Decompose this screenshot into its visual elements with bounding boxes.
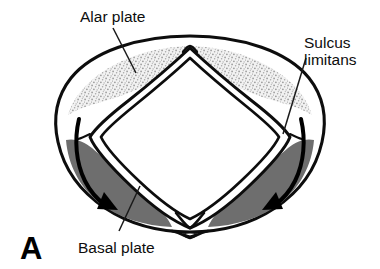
label-sulcus-limitans-line2: limitans (304, 51, 357, 68)
panel-letter: A (20, 231, 42, 266)
neural-tube-diagram: Alar plate Sulcus limitans Basal plate A (0, 0, 380, 269)
label-alar-plate: Alar plate (80, 8, 145, 25)
label-sulcus-limitans-line1: Sulcus (304, 34, 351, 51)
label-basal-plate: Basal plate (78, 239, 155, 256)
figure-panel-a: Alar plate Sulcus limitans Basal plate A (0, 0, 380, 269)
